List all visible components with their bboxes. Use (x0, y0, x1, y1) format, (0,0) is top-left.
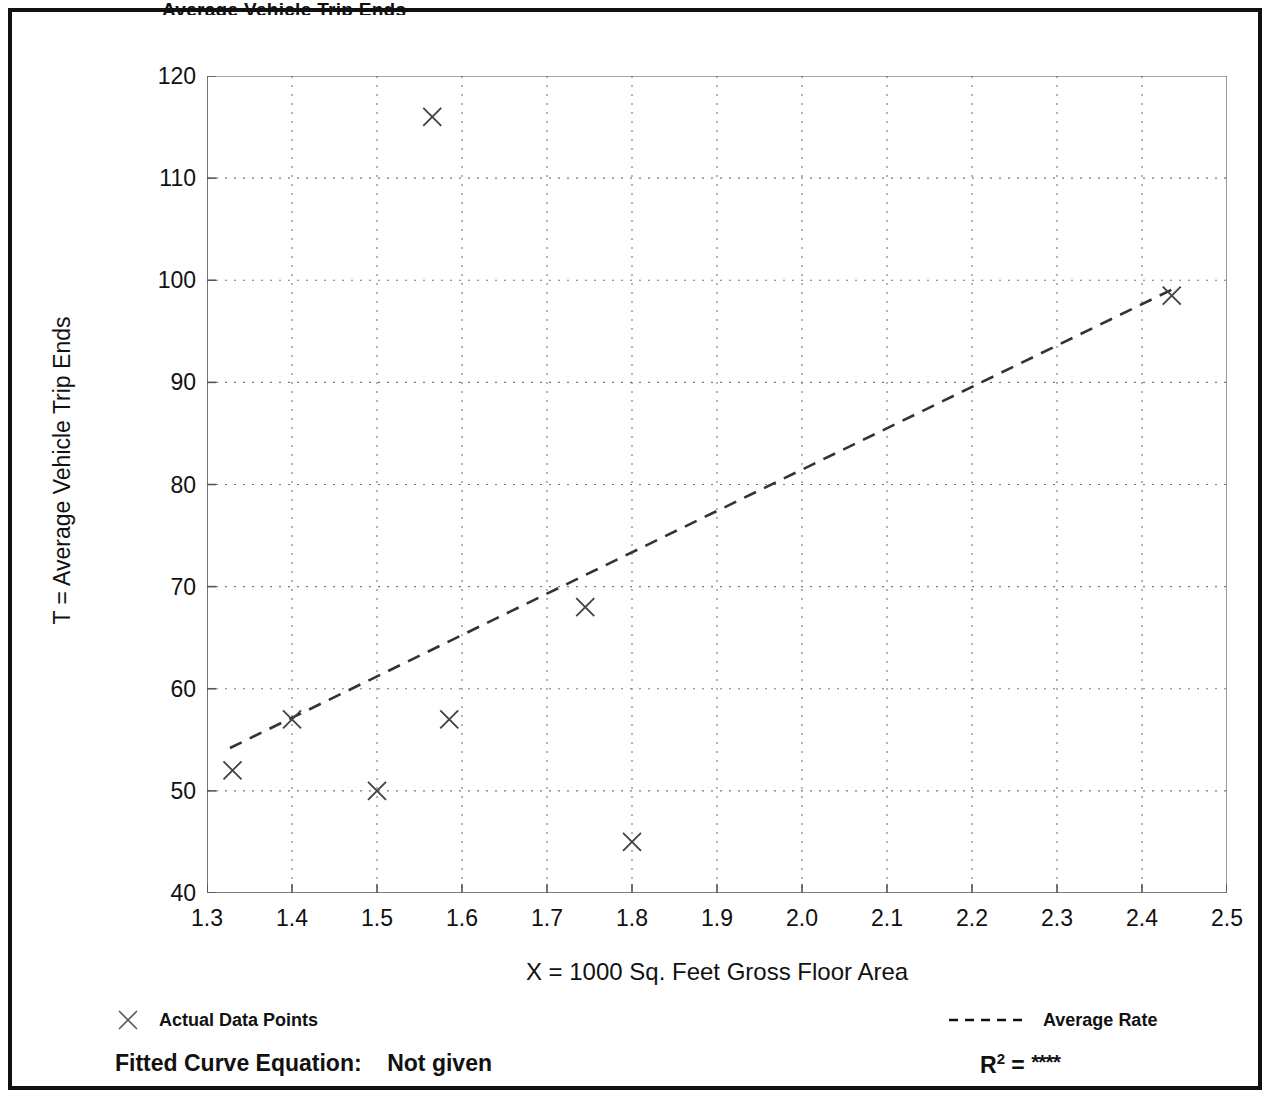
scatter-plot-svg (207, 76, 1227, 893)
x-tick-label: 2.1 (847, 907, 927, 930)
chart-page: Average Vehicle Trip Ends 40506070809010… (0, 0, 1270, 1105)
fitted-curve-value: Not given (387, 1050, 492, 1076)
data-point-marker (576, 598, 594, 616)
x-axis-title: X = 1000 Sq. Feet Gross Floor Area (207, 958, 1227, 986)
x-axis-tick-labels: 1.31.41.51.61.71.81.92.02.12.22.32.42.5 (207, 907, 1227, 939)
x-tick-label: 1.5 (337, 907, 417, 930)
r-squared-stars: **** (1031, 1050, 1060, 1073)
chart-footer: Fitted Curve Equation: Not given R2 = **… (12, 1050, 1266, 1090)
r-squared-exponent: 2 (997, 1050, 1005, 1067)
data-point-markers (224, 108, 1181, 851)
data-point-marker (224, 761, 242, 779)
r-squared-value: R2 = **** (980, 1050, 1060, 1079)
y-axis-tick-labels: 405060708090100110120 (122, 76, 196, 893)
legend-label-actual-data-points: Actual Data Points (159, 1010, 318, 1031)
fitted-curve-label: Fitted Curve Equation: (115, 1050, 362, 1076)
x-tick-label: 1.4 (252, 907, 332, 930)
y-tick-label: 100 (134, 269, 196, 292)
legend-label-average-rate: Average Rate (1043, 1010, 1157, 1031)
x-tick-label: 2.0 (762, 907, 842, 930)
y-tick-label: 70 (134, 576, 196, 599)
plot-area (207, 76, 1227, 893)
x-tick-label: 2.2 (932, 907, 1012, 930)
y-tick-label: 40 (134, 882, 196, 905)
x-tick-label: 1.7 (507, 907, 587, 930)
gridlines (207, 76, 1227, 893)
x-tick-label: 1.6 (422, 907, 502, 930)
data-point-marker (440, 710, 458, 728)
legend-item-actual-data-points: Actual Data Points (115, 1002, 318, 1038)
x-tick-label: 1.9 (677, 907, 757, 930)
x-tick-label: 2.5 (1187, 907, 1267, 930)
r-squared-equals: = (1011, 1052, 1024, 1078)
x-marker-icon (115, 1007, 141, 1033)
x-tick-label: 2.3 (1017, 907, 1097, 930)
y-tick-label: 60 (134, 678, 196, 701)
chart-title: Average Vehicle Trip Ends (162, 0, 762, 15)
data-point-marker (1163, 287, 1181, 305)
y-tick-label: 90 (134, 371, 196, 394)
r-squared-label: R (980, 1052, 997, 1078)
y-tick-label: 80 (134, 474, 196, 497)
y-axis-title: T = Average Vehicle Trip Ends (49, 281, 76, 661)
y-tick-label: 50 (134, 780, 196, 803)
x-tick-label: 1.3 (167, 907, 247, 930)
legend: Actual Data Points Average Rate (12, 1002, 1266, 1038)
data-point-marker (423, 108, 441, 126)
y-tick-label: 110 (134, 167, 196, 190)
x-tick-label: 1.8 (592, 907, 672, 930)
fitted-curve-equation: Fitted Curve Equation: Not given (115, 1050, 492, 1077)
x-tick-label: 2.4 (1102, 907, 1182, 930)
data-point-marker (623, 833, 641, 851)
dashed-line-icon (947, 1014, 1027, 1026)
average-rate-trendline (230, 288, 1174, 748)
y-tick-label: 120 (134, 65, 196, 88)
legend-item-average-rate: Average Rate (947, 1002, 1157, 1038)
chart-frame: Average Vehicle Trip Ends 40506070809010… (8, 8, 1262, 1090)
